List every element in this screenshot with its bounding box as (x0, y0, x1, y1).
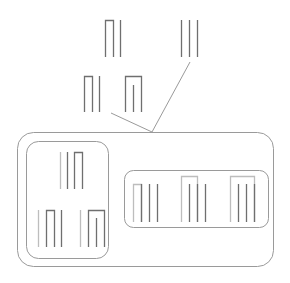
glyph-left-box-bottom-left (39, 210, 62, 247)
glyph-left-box-top (61, 152, 83, 189)
stroke-arch (134, 185, 142, 223)
glyph-top-left (106, 20, 121, 57)
glyph-right-box-3 (231, 177, 255, 223)
glyph-top-right (182, 20, 198, 57)
outer-container (18, 133, 274, 267)
diagram-canvas (0, 0, 290, 283)
stroke-arch (231, 177, 255, 223)
glyph-right-box-2 (182, 177, 206, 223)
stroke-arch (106, 21, 114, 58)
stroke-arch (75, 153, 83, 190)
glyph-mid-left (85, 76, 100, 112)
connector-left (111, 113, 152, 132)
connectors-layer (111, 62, 190, 132)
glyph-right-box-1 (134, 184, 158, 222)
glyphs-layer (39, 20, 255, 247)
stroke-arch (47, 211, 55, 248)
connector-right (152, 62, 190, 132)
glyph-mid-right (126, 77, 142, 113)
diagram-svg (0, 0, 290, 283)
containers-layer (18, 133, 274, 267)
stroke-arch (85, 77, 93, 113)
glyph-left-box-bottom-right (81, 210, 105, 247)
